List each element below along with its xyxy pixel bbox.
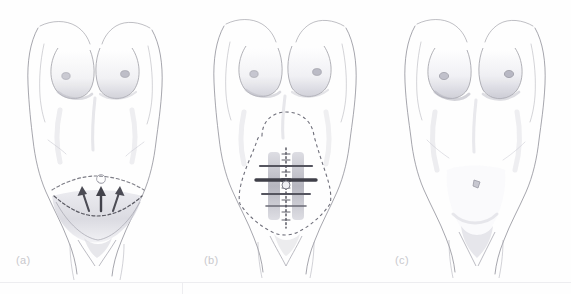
midline-shadow-c	[474, 100, 476, 152]
right-nipple-a	[121, 71, 130, 78]
left-arm-inner-c	[417, 42, 422, 120]
flank-shadow-left-a	[57, 110, 60, 162]
right-shoulder-c	[485, 20, 533, 42]
flat-abdomen-shading-c	[447, 166, 506, 236]
right-breast-a	[96, 48, 139, 99]
figure-sheet: (a)	[0, 0, 571, 294]
waist-crease-left-c	[427, 140, 449, 158]
torso-drawing-a	[0, 0, 190, 294]
panel-caption-a: (a)	[16, 254, 31, 266]
torso-drawing-c	[381, 0, 571, 294]
sheet-rule-divider	[0, 282, 571, 283]
right-thigh-a	[120, 244, 124, 280]
panel-c-postoperative-result: (c)	[381, 0, 571, 294]
left-nipple-b	[250, 71, 258, 78]
midline-shadow-a	[93, 98, 95, 150]
panel-b-undermining-and-plication: (b)	[190, 0, 380, 294]
left-nipple-c	[439, 72, 448, 79]
panel-a-preoperative-marking: (a)	[0, 0, 190, 294]
right-nipple-c	[504, 70, 513, 77]
undermining-dashed-outline-b	[239, 112, 331, 235]
left-arm-inner-a	[40, 44, 45, 122]
right-arm-inner-a	[147, 46, 152, 124]
upper-incision-dashed-line-a	[52, 176, 144, 190]
left-arm-inner-b	[226, 42, 231, 120]
umbilicus-b	[282, 181, 290, 189]
flank-shadow-right-c	[515, 112, 519, 170]
right-shoulder-b	[296, 20, 344, 42]
torso-drawing-b	[190, 0, 380, 294]
flank-shadow-left-b	[241, 112, 244, 164]
left-shoulder-c	[417, 20, 467, 43]
right-arm-inner-b	[341, 44, 346, 122]
left-shoulder-b	[226, 20, 276, 43]
left-shoulder-a	[40, 22, 90, 45]
right-breast-b	[288, 46, 331, 97]
flank-shadow-right-b	[326, 112, 329, 164]
pubic-shadow-b	[274, 234, 300, 256]
right-arm-inner-c	[530, 44, 535, 122]
flank-shadow-right-a	[132, 110, 135, 162]
left-nipple-a	[62, 73, 70, 80]
flank-shadow-left-c	[433, 112, 437, 170]
panel-caption-b: (b)	[204, 254, 219, 266]
rectus-muscle-right-b	[292, 152, 304, 220]
rectus-muscle-left-b	[268, 152, 280, 220]
waist-crease-right-c	[503, 142, 525, 160]
panel-caption-c: (c)	[395, 254, 409, 266]
sheet-rule-tick	[182, 283, 183, 294]
right-nipple-b	[313, 69, 322, 76]
right-shoulder-a	[102, 22, 150, 44]
right-thigh-c	[499, 240, 503, 278]
right-breast-c	[479, 48, 522, 99]
midline-shadow-b	[283, 96, 285, 138]
